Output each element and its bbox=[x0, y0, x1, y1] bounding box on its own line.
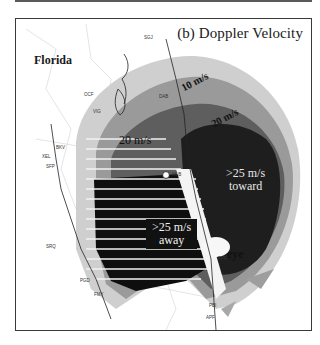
station-pgd: PGD bbox=[80, 278, 90, 283]
away-label-direction: away bbox=[152, 234, 191, 247]
radar-map-panel: (b) Doppler Velocity Florida 10 m/s 20 m… bbox=[15, 18, 312, 331]
station-sfp: SFP bbox=[46, 164, 55, 169]
station-bkv: BKV bbox=[56, 145, 65, 150]
station-apf: APF bbox=[206, 315, 215, 320]
station-sgj: SGJ bbox=[144, 35, 153, 40]
station-vig: VIG bbox=[93, 109, 101, 114]
station-mlb: MLB bbox=[172, 172, 181, 177]
radar-site-marker bbox=[163, 172, 170, 179]
station-ocf: OCF bbox=[84, 92, 94, 97]
station-xel: XEL bbox=[42, 154, 51, 159]
contour-label-20ms-lower: 20 m/s bbox=[119, 133, 151, 148]
station-srq: SRQ bbox=[46, 244, 56, 249]
eye-label: eye bbox=[227, 247, 244, 262]
station-fpr: FPR bbox=[218, 256, 227, 261]
station-fmy: FMY bbox=[94, 292, 104, 297]
toward-label-direction: toward bbox=[226, 180, 265, 193]
panel-title: (b) Doppler Velocity bbox=[177, 25, 303, 42]
station-pbi: PBI bbox=[209, 303, 216, 308]
station-dab: DAB bbox=[159, 94, 168, 99]
toward-label: >25 m/s toward bbox=[226, 167, 265, 193]
region-label: Florida bbox=[34, 53, 72, 68]
top-rule bbox=[15, 0, 312, 2]
away-label: >25 m/s away bbox=[146, 219, 197, 249]
